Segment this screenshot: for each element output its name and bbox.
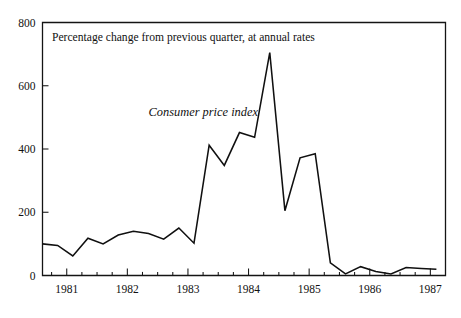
x-tick-label: 1983 — [176, 283, 199, 295]
chart-canvas: 0200400600800 19811982198319841985198619… — [0, 0, 461, 318]
x-tick-label: 1982 — [116, 283, 139, 295]
y-tick-label: 400 — [18, 143, 36, 155]
y-tick-label: 200 — [18, 206, 36, 218]
x-axis-ticks — [52, 269, 431, 276]
y-tick-label: 0 — [30, 270, 36, 282]
plot-frame — [43, 23, 446, 276]
series-line — [43, 53, 437, 274]
y-axis-ticks — [43, 86, 49, 213]
y-tick-label: 600 — [18, 80, 36, 92]
chart-annotations: Consumer price index — [149, 105, 259, 119]
x-tick-label: 1986 — [358, 283, 381, 295]
x-axis-tick-labels: 1981198219831984198519861987 — [55, 283, 442, 295]
x-tick-label: 1985 — [298, 283, 321, 295]
chart-figure: 0200400600800 19811982198319841985198619… — [0, 0, 461, 318]
y-tick-label: 800 — [18, 17, 36, 29]
y-axis-tick-labels: 0200400600800 — [18, 17, 36, 282]
x-tick-label: 1987 — [419, 283, 442, 295]
chart-title: Percentage change from previous quarter,… — [52, 31, 315, 44]
x-tick-label: 1981 — [55, 283, 78, 295]
data-series-lines — [43, 53, 437, 274]
x-tick-label: 1984 — [237, 283, 260, 295]
series-label: Consumer price index — [149, 105, 259, 119]
plot-border — [43, 23, 446, 276]
